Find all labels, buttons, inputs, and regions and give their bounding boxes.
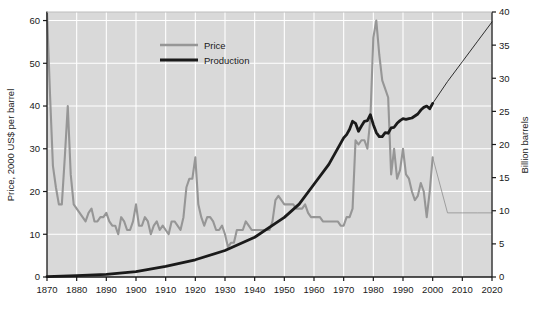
y-tick-label-right: 40	[499, 6, 510, 17]
legend-label-price: Price	[204, 40, 226, 51]
x-tick-label: 2010	[452, 284, 473, 295]
x-tick-label: 1880	[66, 284, 87, 295]
x-tick-label: 1960	[303, 284, 324, 295]
x-tick-label: 1940	[244, 284, 265, 295]
y-tick-label-left: 60	[29, 15, 40, 26]
oil-price-production-chart: 1870188018901900191019201930194019501960…	[0, 0, 539, 312]
x-tick-label: 2000	[422, 284, 443, 295]
y-tick-label-left: 0	[35, 271, 40, 282]
y-tick-label-left: 40	[29, 100, 40, 111]
x-tick-label: 1980	[363, 284, 384, 295]
y-tick-label-right: 35	[499, 40, 510, 51]
y-tick-label-right: 0	[499, 271, 504, 282]
x-tick-label: 2020	[481, 284, 502, 295]
y-tick-label-right: 10	[499, 205, 510, 216]
x-tick-label: 1970	[333, 284, 354, 295]
y-tick-label-right: 30	[499, 73, 510, 84]
y-tick-label-right: 5	[499, 238, 504, 249]
y-tick-label-right: 15	[499, 172, 510, 183]
x-tick-label: 1900	[125, 284, 146, 295]
x-tick-label: 1870	[36, 284, 57, 295]
x-tick-label: 1950	[274, 284, 295, 295]
left-axis-title: Price, 2000 US$ per barrel	[5, 89, 16, 201]
y-tick-label-right: 20	[499, 139, 510, 150]
y-tick-label-right: 25	[499, 106, 510, 117]
y-tick-label-left: 10	[29, 229, 40, 240]
y-tick-label-left: 20	[29, 186, 40, 197]
legend-label-production: Production	[204, 55, 249, 66]
plot-area-background	[47, 12, 492, 277]
x-tick-label: 1890	[96, 284, 117, 295]
right-axis-title: Billion barrels	[519, 116, 530, 173]
x-tick-label: 1920	[185, 284, 206, 295]
x-tick-label: 1990	[392, 284, 413, 295]
y-tick-label-left: 30	[29, 143, 40, 154]
y-tick-label-left: 50	[29, 58, 40, 69]
x-tick-label: 1930	[214, 284, 235, 295]
x-tick-label: 1910	[155, 284, 176, 295]
chart-canvas: 1870188018901900191019201930194019501960…	[0, 0, 539, 312]
